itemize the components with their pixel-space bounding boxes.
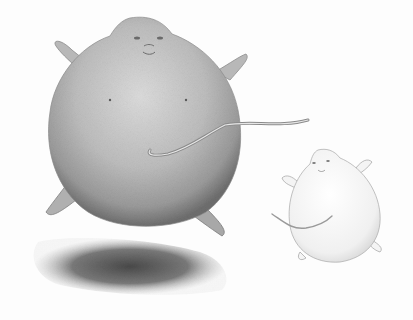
illustration-canvas xyxy=(0,0,413,320)
large-body xyxy=(49,17,241,226)
large-creature xyxy=(46,17,308,236)
small-creature xyxy=(272,149,381,262)
ground-shadow xyxy=(34,238,227,295)
pencil-drawing xyxy=(0,0,413,320)
